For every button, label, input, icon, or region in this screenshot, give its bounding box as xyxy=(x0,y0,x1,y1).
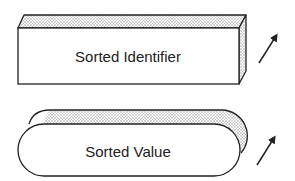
sorted-value-label: Sorted Value xyxy=(85,143,171,160)
box-right-face xyxy=(239,15,246,84)
up-right-arrow-icon xyxy=(259,36,276,63)
sorted-identifier-box: Sorted Identifier xyxy=(18,15,246,84)
box-top-face xyxy=(18,15,246,28)
diagram-canvas: Sorted Identifier Sorted Value xyxy=(0,0,295,181)
sorted-value-pill: Sorted Value xyxy=(18,110,248,176)
sorted-identifier-label: Sorted Identifier xyxy=(75,48,181,65)
up-right-arrow-icon xyxy=(257,138,274,165)
